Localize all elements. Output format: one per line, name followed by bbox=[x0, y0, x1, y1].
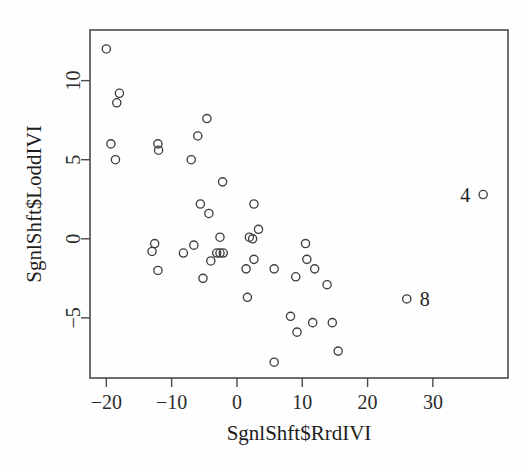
data-point bbox=[115, 89, 123, 97]
x-tick-label-0: −20 bbox=[91, 391, 122, 413]
x-axis-title: SgnlShft$RrdIVI bbox=[227, 421, 372, 445]
data-point bbox=[203, 114, 211, 122]
y-axis-title: SgnlShft$LoddIVI bbox=[22, 125, 46, 283]
data-point bbox=[111, 156, 119, 164]
point-label-4: 4 bbox=[460, 184, 470, 206]
data-point bbox=[216, 233, 224, 241]
x-tick-label-2: 0 bbox=[232, 391, 242, 413]
data-point bbox=[403, 295, 411, 303]
data-point bbox=[179, 249, 187, 257]
data-point bbox=[479, 190, 487, 198]
data-point bbox=[102, 45, 110, 53]
data-point bbox=[207, 257, 215, 265]
scatter-plot-figure: −20−1001020301050−5SgnlShft$RrdIVISgnlSh… bbox=[0, 0, 529, 471]
y-tick-label-3: −5 bbox=[62, 307, 84, 328]
data-point bbox=[270, 358, 278, 366]
data-point bbox=[190, 241, 198, 249]
data-point bbox=[323, 281, 331, 289]
data-point bbox=[151, 239, 159, 247]
data-point bbox=[309, 319, 317, 327]
data-point bbox=[328, 319, 336, 327]
data-point bbox=[113, 99, 121, 107]
data-point bbox=[293, 328, 301, 336]
data-point bbox=[187, 156, 195, 164]
data-point bbox=[243, 293, 251, 301]
x-tick-label-1: −10 bbox=[156, 391, 187, 413]
data-point bbox=[218, 178, 226, 186]
y-tick-label-2: 0 bbox=[62, 234, 84, 244]
data-point bbox=[199, 274, 207, 282]
data-point bbox=[292, 273, 300, 281]
data-point bbox=[205, 209, 213, 217]
data-point bbox=[303, 255, 311, 263]
data-point bbox=[194, 132, 202, 140]
x-tick-label-4: 20 bbox=[358, 391, 378, 413]
data-point bbox=[301, 239, 309, 247]
data-point bbox=[148, 247, 156, 255]
data-point bbox=[242, 265, 250, 273]
data-point bbox=[196, 200, 204, 208]
plot-frame bbox=[90, 30, 508, 378]
data-point bbox=[250, 255, 258, 263]
x-tick-label-3: 10 bbox=[292, 391, 312, 413]
point-label-8: 8 bbox=[420, 288, 430, 310]
data-point bbox=[270, 265, 278, 273]
data-point bbox=[254, 225, 262, 233]
data-point bbox=[311, 265, 319, 273]
data-point bbox=[250, 200, 258, 208]
data-point bbox=[334, 347, 342, 355]
data-point bbox=[107, 140, 115, 148]
x-tick-label-5: 30 bbox=[423, 391, 443, 413]
y-tick-label-0: 10 bbox=[62, 71, 84, 91]
data-point bbox=[286, 312, 294, 320]
plot-canvas: −20−1001020301050−5SgnlShft$RrdIVISgnlSh… bbox=[0, 0, 529, 471]
data-point bbox=[154, 266, 162, 274]
y-tick-label-1: 5 bbox=[62, 155, 84, 165]
